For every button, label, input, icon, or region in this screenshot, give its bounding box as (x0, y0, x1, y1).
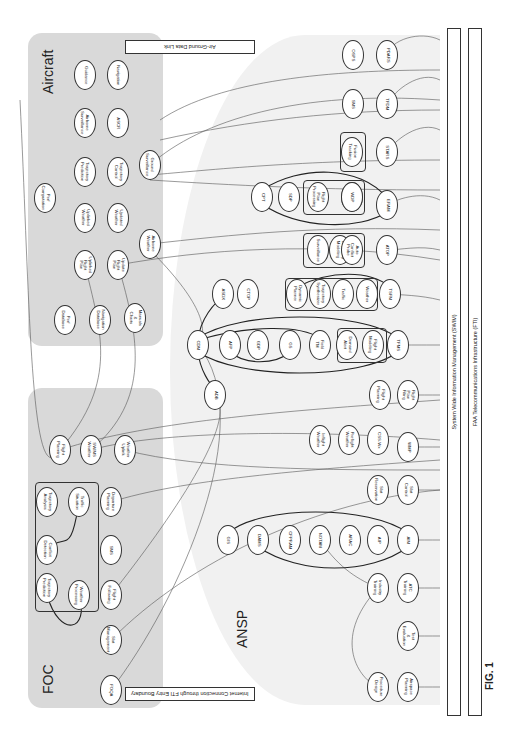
node-traffic: Traffic (332, 279, 354, 309)
node-preflight_weather: PreflightWeather (338, 425, 360, 455)
node-label: Test&Evaluation (401, 626, 415, 646)
node-arac: ARAC (339, 525, 361, 555)
node-label: TrajectoryPrediction (42, 578, 51, 597)
node-gdp: GDP (247, 330, 269, 360)
node-atop: ATOP (376, 235, 398, 265)
node-label: AFP (228, 341, 233, 349)
node-slot_reservation: SlotReservation (367, 475, 389, 505)
node-perf_database: PerfDatabase (54, 305, 76, 335)
node-demand_alert: DemandAlert (336, 330, 358, 360)
node-label: AirborneWeather (145, 236, 154, 252)
node-label: FlightPlanning (375, 387, 384, 404)
node-label: SWIMSWeather (86, 442, 95, 458)
node-tsfm: TSFM (379, 279, 401, 309)
node-label: STARS (385, 145, 390, 159)
node-label: DynamicPlanner (292, 286, 301, 303)
node-label: GS (288, 342, 293, 348)
node-label: ATOP (385, 244, 390, 255)
node-conflict_detection: ConflictDetection (36, 535, 58, 565)
node-label: NavigationDatabase (95, 310, 104, 330)
node-label: ADB (213, 391, 218, 400)
node-wmp: WMP (397, 432, 419, 462)
node-label: TrajectoryPrediction (80, 162, 89, 181)
node-label: CDM (196, 340, 201, 350)
node-notam: NOTAM (309, 525, 331, 555)
node-flight_modeling: FlightModeling (362, 330, 384, 360)
node-label: CPT (260, 193, 265, 202)
node-tfms: TFMS (387, 330, 409, 360)
node-navigation_database: NavigationDatabase (89, 305, 111, 335)
node-updated_weather: UpdatedWeather (107, 203, 129, 233)
architecture-diagram: Aircraft FOC ANSP Air-Ground Data Link I… (0, 0, 512, 731)
node-label: TrajectoryAnalysis (42, 493, 51, 512)
node-foqa: FOQA (100, 675, 122, 705)
node-eram: ERAM (376, 190, 398, 220)
node-label: UpdatedWeather (113, 210, 122, 226)
connector-lines (0, 0, 512, 731)
node-label: FlightFollowing (106, 586, 115, 604)
node-aip: AIP (367, 525, 389, 555)
node-label: GDP (256, 340, 261, 349)
node-label: ERAM (385, 199, 390, 211)
node-label: AirborneSurveillance (80, 111, 89, 134)
node-label: NOTAM (318, 532, 323, 547)
node-label: AIP (376, 537, 381, 544)
node-label: FlightPlanning (55, 442, 64, 459)
node-inflight_weather: InflightWeather (309, 425, 331, 455)
node-label: FieldTM (315, 340, 324, 349)
node-traffic_situation: TrafficSituation (68, 487, 90, 517)
node-label: Manuals&Charts (128, 310, 142, 326)
node-label: IndustryTraining (373, 580, 382, 595)
node-label: SlotManagement (106, 627, 115, 652)
node-ascr: ASCR (107, 108, 129, 138)
node-label: CTOP (246, 288, 251, 300)
node-fusion_tracking: FusionTracking (341, 137, 363, 167)
node-weather: Weather (356, 279, 378, 309)
node-label: FlightPlanProcessing (311, 186, 325, 207)
node-label: WMP (406, 442, 411, 453)
node-label: TrajectoryControl (113, 163, 122, 182)
node-label: WeatherUplink (120, 442, 129, 458)
node-airspace_planning: AirspacePlanning (397, 672, 419, 702)
node-surveillance: Surveillance (307, 235, 329, 265)
node-dynamic_planner: DynamicPlanner (286, 279, 308, 309)
node-test_evaluation: Test&Evaluation (397, 621, 419, 651)
node-manuals_charts: Manuals&Charts (124, 303, 146, 333)
node-label: DAMS (256, 534, 261, 546)
node-slot_management: SlotManagement (100, 625, 122, 655)
node-perf_computation: PerfComputation (34, 183, 56, 213)
node-label: ConflictDetection (42, 541, 51, 559)
node-label: SMS (109, 545, 114, 554)
node-label: Navigation (116, 65, 121, 85)
node-dams: DAMS (247, 525, 269, 555)
node-guidance: Guidance (74, 60, 96, 90)
node-sms_foc: SMS (100, 535, 122, 565)
node-flight_plan_filing: FlightPlanFiling (397, 380, 419, 410)
node-ground_surveillance: GroundSurveillance (139, 150, 161, 180)
node-label: CFPRAM (288, 531, 293, 549)
node-label: ProcedureDesign (373, 677, 382, 697)
node-swims_weather: SWIMSWeather (80, 435, 102, 465)
node-label: FlightPlanFiling (401, 390, 415, 401)
node-ctop: CTOP (237, 279, 259, 309)
node-asdx: ASDX (212, 279, 234, 309)
node-label: UplinkedWeather (80, 210, 89, 227)
node-flight_plan_processing: FlightPlanProcessing (307, 182, 329, 212)
node-label: PerfComputation (40, 186, 49, 210)
figure-label: FIG. 1 (484, 662, 495, 690)
node-label: PreflightWeather (344, 432, 353, 448)
node-label: Weather (365, 286, 370, 302)
node-trajectory_synthesizer: TrajectorySynthesizer (309, 279, 331, 309)
node-tfdm: TFDM (376, 89, 398, 119)
node-label: DeparturePlanning (106, 492, 115, 511)
node-cpt: CPT (251, 182, 273, 212)
node-sms: SMS (342, 89, 364, 119)
node-airborne_surveillance: AirborneSurveillance (74, 108, 96, 138)
node-departure_planning: DeparturePlanning (100, 487, 122, 517)
node-afp: AFP (219, 330, 241, 360)
node-label: Surveillance (316, 238, 321, 261)
node-wdp: WDP (341, 182, 363, 212)
node-weather_processing: WeatherProcessing (68, 580, 90, 610)
node-label: DemandAlert (342, 337, 351, 353)
node-weather_uplink: WeatherUplink (114, 435, 136, 465)
